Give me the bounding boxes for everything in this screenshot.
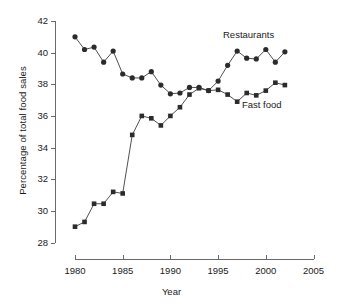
data-point-marker-square: [92, 201, 97, 206]
data-point-marker-square: [244, 91, 249, 96]
data-point-marker-circle: [263, 47, 268, 52]
data-point-marker-square: [206, 88, 211, 93]
plot-area: [0, 0, 343, 304]
data-point-marker-circle: [111, 48, 116, 53]
data-point-marker-square: [178, 105, 183, 110]
data-point-marker-square: [225, 92, 230, 97]
data-point-marker-square: [82, 220, 87, 225]
data-point-marker-square: [264, 88, 269, 93]
data-point-marker-circle: [82, 47, 87, 52]
data-point-marker-circle: [282, 49, 287, 54]
data-point-marker-circle: [168, 91, 173, 96]
data-point-marker-circle: [91, 45, 96, 50]
data-point-marker-square: [273, 80, 278, 85]
data-point-marker-circle: [254, 56, 259, 61]
data-point-marker-square: [73, 224, 78, 229]
data-point-marker-circle: [120, 71, 125, 76]
data-point-marker-square: [159, 123, 164, 128]
data-point-marker-circle: [149, 69, 154, 74]
series-line: [75, 37, 285, 94]
data-point-marker-square: [187, 92, 192, 97]
x-axis-title: Year: [0, 286, 343, 297]
data-point-marker-circle: [187, 85, 192, 90]
data-point-marker-circle: [273, 60, 278, 65]
data-point-marker-circle: [216, 79, 221, 84]
data-point-marker-circle: [130, 75, 135, 80]
chart-figure: Percentage of total food sales 283032343…: [0, 0, 343, 304]
data-point-marker-square: [130, 133, 135, 138]
data-point-marker-square: [111, 190, 116, 195]
data-point-marker-square: [197, 86, 202, 91]
data-point-marker-circle: [72, 34, 77, 39]
data-point-marker-circle: [139, 75, 144, 80]
data-point-marker-circle: [177, 90, 182, 95]
data-point-marker-square: [120, 191, 125, 196]
data-point-marker-square: [283, 83, 288, 88]
data-point-marker-circle: [235, 48, 240, 53]
data-point-marker-circle: [244, 56, 249, 61]
data-point-marker-square: [216, 88, 221, 93]
data-point-marker-square: [168, 114, 173, 119]
data-point-marker-square: [139, 114, 144, 119]
series-restaurants: [72, 34, 287, 96]
data-point-marker-circle: [225, 63, 230, 68]
data-point-marker-square: [235, 99, 240, 104]
series-label-fast-food: Fast food: [242, 99, 282, 110]
data-point-marker-circle: [101, 60, 106, 65]
data-point-marker-square: [101, 201, 106, 206]
data-point-marker-circle: [158, 82, 163, 87]
data-point-marker-square: [254, 93, 259, 98]
data-point-marker-square: [149, 116, 154, 121]
series-label-restaurants: Restaurants: [223, 29, 274, 40]
